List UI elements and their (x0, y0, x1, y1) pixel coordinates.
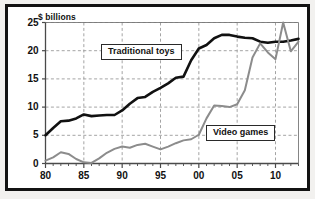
y-axis-tick-label: 20 (13, 45, 39, 56)
y-axis-tick-label: 25 (13, 17, 39, 28)
y-axis-tick-label: 0 (13, 158, 39, 169)
plot-area-wrapper: $ billions Traditional toys Video games … (0, 0, 315, 199)
x-axis-tick-label: 05 (225, 170, 249, 181)
x-axis-tick-label: 10 (264, 170, 288, 181)
y-axis-tick-label: 10 (13, 101, 39, 112)
series-label-video-games: Video games (206, 125, 275, 141)
chart-figure: $ billions Traditional toys Video games … (0, 0, 315, 199)
y-axis-tick-label: 15 (13, 73, 39, 84)
x-axis-tick-label: 85 (72, 170, 96, 181)
x-axis-tick-label: 00 (187, 170, 211, 181)
series-label-traditional-toys: Traditional toys (101, 44, 182, 60)
y-axis-tick-label: 5 (13, 129, 39, 140)
x-axis-tick-label: 95 (149, 170, 173, 181)
x-axis-tick-label: 80 (34, 170, 58, 181)
y-axis-unit-label: $ billions (38, 12, 76, 22)
x-axis-tick-label: 90 (110, 170, 134, 181)
